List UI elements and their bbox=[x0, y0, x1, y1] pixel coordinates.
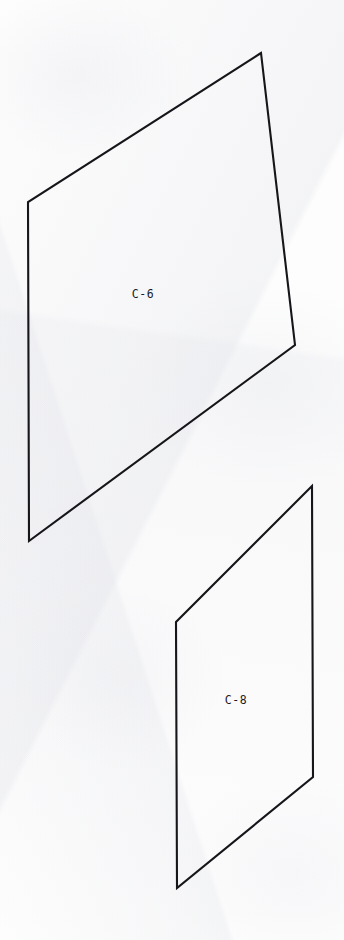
panel-outline-c8[interactable] bbox=[176, 486, 313, 888]
panel-label-c6: C-6 bbox=[132, 287, 154, 301]
panel-label-c8: C-8 bbox=[225, 693, 247, 707]
drawing-sheet: C-6 C-8 bbox=[0, 0, 344, 940]
panel-shapes-layer bbox=[0, 0, 344, 940]
panel-outline-c6[interactable] bbox=[28, 53, 295, 541]
